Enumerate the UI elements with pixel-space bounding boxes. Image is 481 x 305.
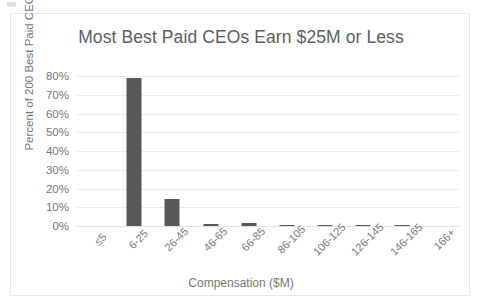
bar-slot: [383, 76, 421, 226]
y-axis-tick-labels: 0%10%20%30%40%50%60%70%80%: [11, 76, 73, 226]
x-axis-tick-label: 126-145: [349, 221, 386, 258]
x-axis-tick-label: 6-25: [126, 227, 150, 251]
bar-slot: [153, 76, 191, 226]
x-axis-tick-slot: 106-125: [306, 226, 344, 276]
bar: [165, 199, 180, 226]
y-axis-tick-label: 50%: [46, 126, 69, 138]
plot-area: [77, 76, 459, 226]
bar-slot: [421, 76, 459, 226]
y-axis-tick-label: 60%: [46, 108, 69, 120]
x-axis-tick-label: ≤5: [92, 231, 109, 248]
y-axis-tick-label: 10%: [46, 201, 69, 213]
bar-slot: [268, 76, 306, 226]
x-axis-tick-label: 26-45: [163, 225, 191, 253]
x-axis-title: Compensation ($M): [11, 276, 471, 290]
x-axis-tick-slot: 26-45: [153, 226, 191, 276]
bar-slot: [192, 76, 230, 226]
x-axis-tick-label: 166+: [431, 226, 457, 252]
chart-screenshot: Most Best Paid CEOs Earn $25M or Less Pe…: [0, 0, 481, 305]
x-axis-tick-slot: 146-165: [383, 226, 421, 276]
bar: [127, 78, 142, 226]
y-axis-tick-label: 0%: [52, 220, 69, 232]
y-axis-tick-label: 70%: [46, 89, 69, 101]
x-axis-tick-labels: ≤56-2526-4546-6566-8586-105106-125126-14…: [77, 226, 459, 276]
x-axis-tick-slot: 46-65: [192, 226, 230, 276]
y-axis-tick-label: 30%: [46, 164, 69, 176]
x-axis-tick-slot: 166+: [421, 226, 459, 276]
x-axis-tick-slot: 66-85: [230, 226, 268, 276]
bar-series: [77, 76, 459, 226]
bar-slot: [230, 76, 268, 226]
y-axis-tick-label: 80%: [46, 70, 69, 82]
chart-container: Most Best Paid CEOs Earn $25M or Less Pe…: [10, 13, 470, 296]
chart-title: Most Best Paid CEOs Earn $25M or Less: [11, 27, 471, 48]
x-axis-tick-label: 66-85: [239, 225, 267, 253]
y-axis-tick-label: 40%: [46, 145, 69, 157]
bar-slot: [306, 76, 344, 226]
x-axis-tick-slot: 6-25: [115, 226, 153, 276]
page-artifact-speck: [7, 2, 16, 7]
x-axis-tick-label: 146-165: [387, 221, 424, 258]
x-axis-tick-slot: 126-145: [344, 226, 382, 276]
y-axis-tick-label: 20%: [46, 183, 69, 195]
bar-slot: [115, 76, 153, 226]
x-axis-tick-label: 86-105: [275, 223, 308, 256]
bar-slot: [344, 76, 382, 226]
x-axis-tick-label: 106-125: [311, 221, 348, 258]
x-axis-tick-slot: ≤5: [77, 226, 115, 276]
bar-slot: [77, 76, 115, 226]
x-axis-tick-label: 46-65: [201, 225, 229, 253]
x-axis-tick-slot: 86-105: [268, 226, 306, 276]
